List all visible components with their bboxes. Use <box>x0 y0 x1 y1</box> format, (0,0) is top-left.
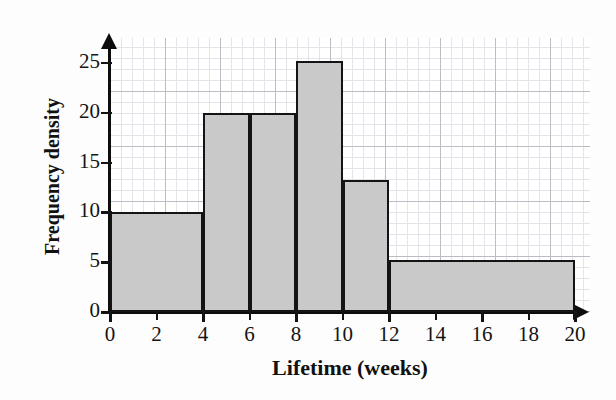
histogram-bar <box>296 61 343 312</box>
x-axis-tick <box>156 311 158 320</box>
x-axis-tick-label: 12 <box>369 322 409 347</box>
y-axis-tick <box>101 162 112 165</box>
x-axis-tick-label: 10 <box>323 322 363 347</box>
x-axis-tick-label: 6 <box>230 322 270 347</box>
x-axis-tick-label: 18 <box>509 322 549 347</box>
y-axis-tick-label: 0 <box>48 298 100 323</box>
histogram-bar <box>110 212 203 312</box>
histogram-bar <box>343 180 390 312</box>
x-axis-tick-label: 8 <box>276 322 316 347</box>
x-axis-tick-label: 4 <box>183 322 223 347</box>
y-axis-tick <box>101 112 112 115</box>
y-axis-tick <box>101 62 112 65</box>
x-axis-tick <box>342 311 344 320</box>
histogram-bar <box>203 113 250 312</box>
x-axis-tick <box>388 311 391 322</box>
histogram-bar <box>250 113 297 312</box>
x-axis-title: Lifetime (weeks) <box>110 355 590 381</box>
x-axis-tick <box>249 311 251 320</box>
histogram-figure: 02468101214161820 0510152025 Frequency d… <box>0 0 616 400</box>
x-axis-tick-label: 16 <box>462 322 502 347</box>
histogram-bar <box>389 260 575 312</box>
x-axis-tick <box>295 311 298 322</box>
y-axis-arrow-icon <box>101 33 117 49</box>
x-axis-tick-label: 14 <box>416 322 456 347</box>
x-axis-tick <box>481 311 484 322</box>
x-axis-tick <box>202 311 205 322</box>
x-axis-tick-label: 20 <box>555 322 595 347</box>
y-axis-title: Frequency density <box>41 62 64 292</box>
x-axis-tick <box>435 311 437 320</box>
x-axis-tick <box>528 311 530 320</box>
x-axis-tick-label: 2 <box>137 322 177 347</box>
x-axis-tick <box>574 311 577 322</box>
x-axis-tick-label: 0 <box>90 322 130 347</box>
